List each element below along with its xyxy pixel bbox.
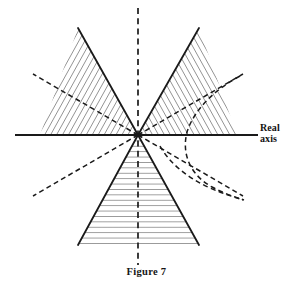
- asymptotic-curve-lower-right: [160, 146, 243, 200]
- figure-canvas: [0, 0, 293, 286]
- figure-caption: Figure 7: [0, 266, 293, 277]
- real-axis-label-line2: axis: [260, 133, 280, 144]
- real-axis-label-line1: Real: [260, 122, 280, 133]
- real-axis-label: Real axis: [260, 122, 280, 144]
- shaded-sector-lower: [0, 0, 293, 286]
- shaded-sector-group: [0, 0, 293, 286]
- figure-7-diagram: Real axis Figure 7: [0, 0, 293, 286]
